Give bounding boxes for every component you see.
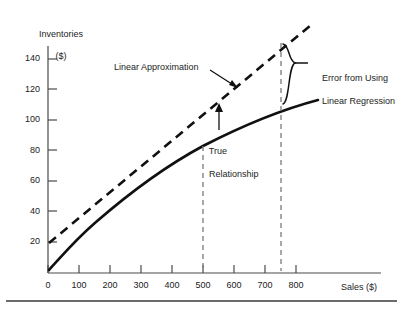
x-tick-label-100: 100: [66, 280, 92, 291]
x-tick-label-800: 800: [283, 280, 309, 291]
x-axis-title: Sales ($): [341, 282, 377, 293]
y-axis-title-line2: ($): [56, 51, 67, 61]
series-true-relationship: [49, 100, 318, 270]
x-tick-label-400: 400: [159, 280, 185, 291]
y-tick-label-20: 20: [14, 236, 40, 247]
x-tick-label-200: 200: [97, 280, 123, 291]
y-axis-title-line1: Inventories: [39, 29, 83, 39]
annotation-error-line1: Error from Using: [322, 73, 388, 83]
y-axis-title: Inventories ($): [24, 18, 88, 73]
true-relationship-arrow: [215, 103, 223, 130]
annotation-error-from-linear-regression: Error from Using Linear Regression: [312, 61, 395, 119]
annotation-true-relationship-line2: Relationship: [209, 169, 259, 179]
y-tick-label-80: 80: [14, 145, 40, 156]
chart-figure: Inventories ($) Sales ($) 140 120 100 80…: [0, 0, 403, 321]
annotation-error-line2: Linear Regression: [322, 96, 395, 106]
linear-approximation-arrow: [210, 70, 238, 88]
error-brace: [283, 44, 295, 104]
y-tick-label-140: 140: [14, 53, 40, 64]
x-tick-label-700: 700: [252, 280, 278, 291]
y-tick-label-40: 40: [14, 206, 40, 217]
annotation-true-relationship: True Relationship: [199, 134, 259, 192]
x-tick-label-600: 600: [221, 280, 247, 291]
x-tick-label-300: 300: [128, 280, 154, 291]
annotation-true-relationship-line1: True: [209, 146, 227, 156]
x-tick-label-500: 500: [190, 280, 216, 291]
y-tick-label-100: 100: [14, 114, 40, 125]
y-tick-label-60: 60: [14, 175, 40, 186]
series-linear-approximation: [49, 25, 311, 243]
x-tick-marks: [48, 265, 296, 273]
x-tick-label-0: 0: [35, 280, 61, 291]
y-tick-label-120: 120: [14, 84, 40, 95]
annotation-linear-approximation: Linear Approximation: [114, 62, 199, 74]
y-tick-marks: [48, 59, 57, 242]
